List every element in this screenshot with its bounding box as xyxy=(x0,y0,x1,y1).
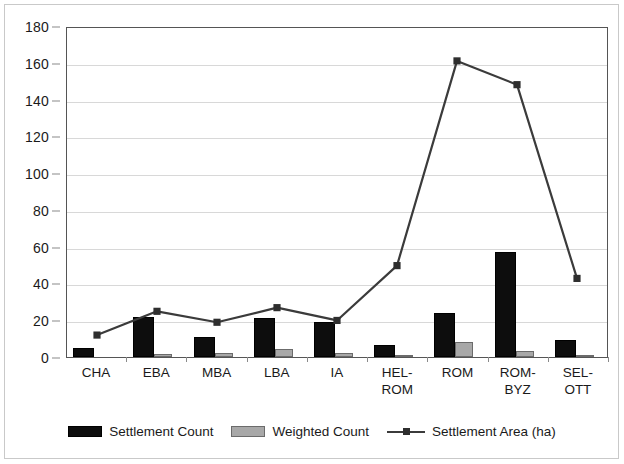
y-tick-mark xyxy=(52,27,60,28)
x-tick-mark xyxy=(548,357,549,362)
x-tick-label: SEL- OTT xyxy=(538,364,618,398)
legend-label-settlement-count: Settlement Count xyxy=(109,424,213,439)
line-marker-settlement-area xyxy=(93,331,100,338)
line-marker-settlement-area xyxy=(513,81,520,88)
line-marker-swatch-icon xyxy=(387,426,425,437)
y-tick-label: 40 xyxy=(33,276,49,292)
chart-legend: Settlement Count Weighted Count Settleme… xyxy=(0,424,624,439)
y-axis: 020406080100120140160180 xyxy=(0,27,60,358)
y-tick-mark xyxy=(52,174,60,175)
legend-label-weighted-count: Weighted Count xyxy=(272,424,369,439)
y-tick-mark xyxy=(52,247,60,248)
line-marker-settlement-area xyxy=(573,275,580,282)
y-tick-label: 120 xyxy=(25,129,49,145)
x-tick-mark xyxy=(608,357,609,362)
x-axis: CHAEBAMBALBAIAHEL- ROMROMROM- BYZSEL- OT… xyxy=(66,364,608,410)
legend-label-settlement-area: Settlement Area (ha) xyxy=(432,424,556,439)
y-tick-label: 60 xyxy=(33,240,49,256)
x-tick-mark xyxy=(367,357,368,362)
y-tick-mark xyxy=(52,210,60,211)
line-marker-settlement-area xyxy=(273,304,280,311)
legend-item-settlement-area: Settlement Area (ha) xyxy=(387,424,556,439)
legend-item-weighted-count: Weighted Count xyxy=(231,424,369,439)
line-settlement-area xyxy=(97,61,577,335)
y-tick-label: 140 xyxy=(25,93,49,109)
x-tick-mark xyxy=(307,357,308,362)
y-tick-label: 180 xyxy=(25,19,49,35)
y-tick-label: 160 xyxy=(25,56,49,72)
line-marker-settlement-area xyxy=(333,317,340,324)
y-tick-label: 80 xyxy=(33,203,49,219)
chart-figure: 020406080100120140160180 CHAEBAMBALBAIAH… xyxy=(0,0,624,464)
y-tick-mark xyxy=(52,100,60,101)
line-series-layer xyxy=(67,28,607,357)
y-tick-label: 20 xyxy=(33,313,49,329)
line-marker-settlement-area xyxy=(393,262,400,269)
legend-item-settlement-count: Settlement Count xyxy=(68,424,213,439)
y-tick-label: 0 xyxy=(41,350,49,366)
x-tick-mark xyxy=(427,357,428,362)
plot-area xyxy=(66,27,608,358)
y-tick-mark xyxy=(52,284,60,285)
y-tick-mark xyxy=(52,137,60,138)
x-tick-mark xyxy=(126,357,127,362)
y-tick-label: 100 xyxy=(25,166,49,182)
x-tick-mark xyxy=(186,357,187,362)
line-marker-settlement-area xyxy=(153,308,160,315)
y-tick-mark xyxy=(52,321,60,322)
gray-bar-swatch-icon xyxy=(231,426,265,437)
line-marker-settlement-area xyxy=(453,57,460,64)
y-tick-mark xyxy=(52,358,60,359)
x-tick-mark xyxy=(247,357,248,362)
black-bar-swatch-icon xyxy=(68,426,102,437)
y-tick-mark xyxy=(52,63,60,64)
x-tick-mark xyxy=(488,357,489,362)
line-marker-settlement-area xyxy=(213,319,220,326)
